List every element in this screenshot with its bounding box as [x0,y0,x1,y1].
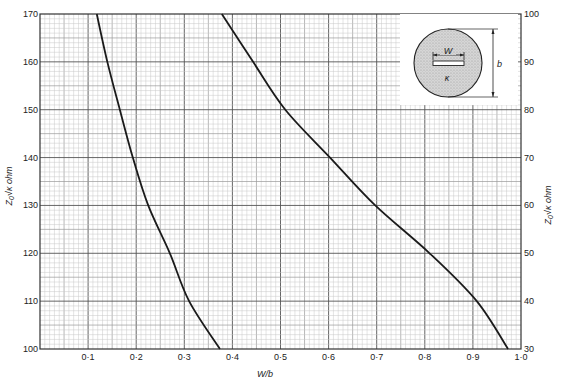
x-axis-label: W/b [257,369,273,379]
right-y-axis-label: Z0√κ ohm [543,185,554,225]
x-tick-label: 0·9 [466,352,479,362]
x-tick-label: 0·8 [418,352,431,362]
x-tick-label: 0·6 [322,352,335,362]
right-y-tick-label: 40 [524,296,534,306]
x-axis-ticks: 0·10·20·30·40·50·60·70·80·91·0 [82,352,528,362]
kappa-label: κ [445,73,450,83]
right-y-tick-label: 90 [524,57,534,67]
left-y-tick-label: 130 [23,200,38,210]
left-y-label-rest: √κ ohm [4,166,14,196]
right-y-tick-label: 30 [524,344,534,354]
left-y-axis-label: Z0√κ ohm [4,166,15,206]
left-y-tick-label: 150 [23,105,38,115]
right-y-tick-label: 50 [524,248,534,258]
x-tick-label: 0·3 [178,352,191,362]
right-y-tick-label: 60 [524,200,534,210]
left-y-axis-ticks: 100110120130140150160170 [23,9,38,354]
left-y-tick-label: 110 [24,296,38,306]
left-y-tick-label: 160 [23,57,38,67]
right-y-tick-label: 80 [524,105,534,115]
left-y-tick-label: 120 [23,248,38,258]
x-tick-label: 0·1 [82,352,95,362]
left-y-tick-label: 170 [23,9,38,19]
x-tick-label: 0·7 [370,352,383,362]
svg-text:Z0√κ ohm: Z0√κ ohm [4,166,15,206]
center-strip [433,61,464,66]
right-y-label-rest: √κ ohm [543,185,553,215]
left-y-tick-label: 100 [23,344,38,354]
right-y-tick-label: 100 [524,9,539,19]
x-tick-label: 0·5 [274,352,287,362]
right-y-tick-label: 70 [524,153,534,163]
b-label: b [497,59,502,69]
x-tick-label: 0·2 [130,352,143,362]
x-tick-label: 0·4 [226,352,239,362]
chart: W κ b 0·10·20·30·40·50·60·70·80·91·0 100… [0,0,561,381]
svg-text:Z0√κ ohm: Z0√κ ohm [543,185,554,225]
inset-diagram: W κ b [400,14,518,105]
left-y-tick-label: 140 [23,153,38,163]
right-y-axis-ticks: 30405060708090100 [524,9,539,354]
